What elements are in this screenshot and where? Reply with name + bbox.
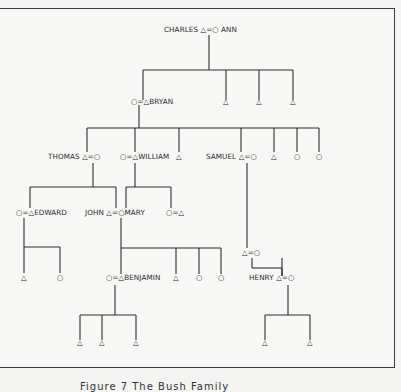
person-ann: ANN <box>221 25 237 34</box>
female-symbol-icon: ○ <box>316 152 322 161</box>
person-william: WILLIAM <box>138 152 169 161</box>
couple-samuel: SAMUEL △=○ <box>206 152 257 161</box>
person-mary: MARY <box>125 208 145 217</box>
couple-henry: HENRY △=○ <box>249 273 294 282</box>
male-symbol-icon: △ <box>173 273 179 282</box>
couple-unnamed: ○=△ <box>166 208 184 217</box>
female-symbol-icon: ○ <box>57 273 63 282</box>
person-thomas: THOMAS <box>48 152 80 161</box>
female-symbol-icon: ○ <box>254 248 260 257</box>
female-symbol-icon: ○ <box>196 273 202 282</box>
couple-thomas: THOMAS △=○ <box>48 152 100 161</box>
couple-benjamin: ○=△BENJAMIN <box>106 273 160 282</box>
couple-john-mary: JOHN △=○MARY <box>85 208 145 217</box>
female-symbol-icon: ○ <box>218 273 224 282</box>
couple-charles-ann: CHARLES △=○ ANN <box>164 25 237 34</box>
figure-caption: Figure 7 The Bush Family <box>80 381 229 392</box>
person-bryan: BRYAN <box>149 97 173 106</box>
female-symbol-icon: ○ <box>294 152 300 161</box>
person-charles: CHARLES <box>164 25 198 34</box>
male-symbol-icon: △ <box>99 338 105 347</box>
male-symbol-icon: △ <box>307 338 313 347</box>
male-symbol-icon: △ <box>256 97 262 106</box>
couple-samuel-son: △=○ <box>242 248 260 257</box>
couple-william: ○=△WILLIAM <box>120 152 169 161</box>
male-symbol-icon: △ <box>179 208 185 217</box>
couple-edward: ○=△EDWARD <box>16 208 67 217</box>
male-symbol-icon: △ <box>21 273 27 282</box>
female-symbol-icon: ○ <box>288 273 294 282</box>
male-symbol-icon: △ <box>262 338 268 347</box>
person-edward: EDWARD <box>34 208 67 217</box>
person-benjamin: BENJAMIN <box>124 273 160 282</box>
person-john: JOHN <box>85 208 104 217</box>
male-symbol-icon: △ <box>133 338 139 347</box>
female-symbol-icon: ○ <box>94 152 100 161</box>
person-samuel: SAMUEL <box>206 152 236 161</box>
male-symbol-icon: △ <box>223 97 229 106</box>
couple-bryan: ○=△BRYAN <box>131 97 173 106</box>
male-symbol-icon: △ <box>77 338 83 347</box>
female-symbol-icon: ○ <box>250 152 256 161</box>
male-symbol-icon: △ <box>271 152 277 161</box>
female-symbol-icon: ○ <box>212 25 218 34</box>
person-henry: HENRY <box>249 273 274 282</box>
male-symbol-icon: △ <box>176 152 182 161</box>
male-symbol-icon: △ <box>290 97 296 106</box>
